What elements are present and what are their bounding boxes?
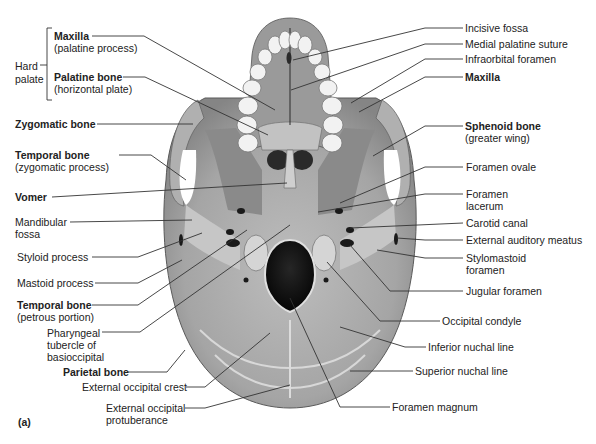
hard-palate-bracket [47,28,52,100]
label-title: Stylomastoid [466,252,526,264]
label-title: Foramen magnum [392,401,478,413]
label-inferior-nuchal-line: Inferior nuchal line [428,341,514,353]
label-title: External occipital [106,402,185,414]
label-foramen-lacerum: Foramen lacerum [466,188,508,212]
label-medial-palatine-suture: Medial palatine suture [465,38,568,50]
label-title: Carotid canal [466,217,528,229]
label-title: Palatine bone [54,71,122,83]
label-foramen-magnum: Foramen magnum [392,401,478,413]
label-zygomatic-bone: Zygomatic bone [15,118,96,130]
label-pharyngeal-tubercle: Pharyngeal tubercle of basioccipital [47,327,104,363]
hard-palate-line2: palate [15,73,44,86]
label-vomer: Vomer [15,191,47,203]
label-maxilla-right: Maxilla [465,71,500,83]
label-temporal-petrous: Temporal bone (petrous portion) [17,299,94,323]
label-title: Sphenoid bone [465,120,541,132]
label-external-auditory-meatus: External auditory meatus [466,234,582,246]
label-carotid-canal: Carotid canal [466,217,528,229]
label-sub: (palatine process) [54,42,137,54]
label-title: Foramen ovale [466,161,536,173]
label-sub: (zygomatic process) [15,161,109,173]
label-title: Parietal bone [63,366,129,378]
label-incisive-fossa: Incisive fossa [465,22,528,34]
label-title: Temporal bone [15,149,89,161]
skull-inferior-view-figure: Hard palate Maxilla (palatine process) P… [0,0,596,444]
label-stylomastoid-foramen: Stylomastoid foramen [466,252,526,276]
label-title: External auditory meatus [466,234,582,246]
label-infraorbital-foramen: Infraorbital foramen [465,53,556,65]
label-occipital-condyle: Occipital condyle [442,315,521,327]
label-sub: foramen [466,264,526,276]
label-title: Zygomatic bone [15,118,96,130]
label-title: Foramen [466,188,508,200]
label-sub: (petrous portion) [17,311,94,323]
label-title: Mastoid process [17,277,93,289]
label-mastoid-process: Mastoid process [17,277,93,289]
label-jugular-foramen: Jugular foramen [466,285,542,297]
label-ext-occipital-protuberance: External occipital protuberance [106,402,185,426]
label-title: Jugular foramen [466,285,542,297]
label-title: Inferior nuchal line [428,341,514,353]
label-ext-occipital-crest: External occipital crest [82,381,187,393]
label-sub: protuberance [106,414,185,426]
label-title: Maxilla [465,71,500,83]
label-title: Pharyngeal [47,327,100,339]
label-title: Vomer [15,191,47,203]
label-title: Temporal bone [17,299,91,311]
label-sub: fossa [15,228,67,240]
label-styloid-process: Styloid process [17,251,88,263]
label-maxilla-palatine: Maxilla (palatine process) [54,30,137,54]
label-temporal-zygomatic: Temporal bone (zygomatic process) [15,149,109,173]
label-sphenoid-bone: Sphenoid bone (greater wing) [465,120,541,144]
label-sub: (horizontal plate) [54,83,132,95]
label-sub2: basioccipital [47,351,104,363]
panel-label: (a) [18,416,31,428]
label-mandibular-fossa: Mandibular fossa [15,216,67,240]
label-palatine-bone: Palatine bone (horizontal plate) [54,71,132,95]
label-title: Medial palatine suture [465,38,568,50]
label-title: Styloid process [17,251,88,263]
label-sub: (greater wing) [465,132,541,144]
label-foramen-ovale: Foramen ovale [466,161,536,173]
label-title: External occipital crest [82,381,187,393]
label-title: Infraorbital foramen [465,53,556,65]
label-title: Maxilla [54,30,89,42]
hard-palate-line1: Hard [15,60,44,73]
label-superior-nuchal-line: Superior nuchal line [415,365,508,377]
label-title: Occipital condyle [442,315,521,327]
label-title: Incisive fossa [465,22,528,34]
label-parietal-bone: Parietal bone [63,366,129,378]
label-sub: lacerum [466,200,508,212]
hard-palate-label: Hard palate [15,60,44,86]
label-title: Mandibular [15,216,67,228]
label-sub: tubercle of [47,339,104,351]
label-title: Superior nuchal line [415,365,508,377]
